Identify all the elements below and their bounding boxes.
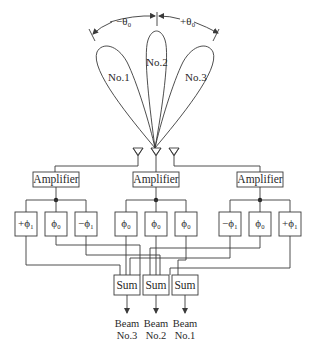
antenna-array	[55, 148, 260, 172]
beam-output-line2: No.1	[173, 330, 198, 342]
lobe-no2	[146, 31, 166, 148]
sum-label-1: Sum	[116, 280, 137, 292]
phase-shifter-2-3: ϕ₀	[181, 218, 191, 229]
amplifier-label-3: Amplifier	[237, 174, 282, 186]
beam-output-no1: Beam No.1	[173, 318, 198, 341]
phase-shifter-3-2: ϕ₀	[255, 218, 265, 229]
lobe-label-no3: No.3	[185, 72, 207, 83]
phase-shifter-1-2: ϕ₀	[51, 218, 61, 229]
angle-label-left: −θ₀	[116, 16, 131, 27]
beam-output-no3: Beam No.3	[115, 318, 140, 341]
beam-output-line2: No.2	[144, 330, 169, 342]
phase-shifter-1-1: +ϕ₁	[18, 218, 34, 229]
amplifier-label-1: Amplifier	[33, 174, 78, 186]
beam-output-line1: Beam	[115, 318, 140, 330]
beam-output-line1: Beam	[173, 318, 198, 330]
phase-shifter-2-2: ϕ₀	[151, 218, 161, 229]
beam-output-line1: Beam	[144, 318, 169, 330]
phase-shifter-3-1: −ϕ₁	[222, 218, 238, 229]
routing-network	[26, 236, 290, 275]
sum-label-3: Sum	[174, 280, 195, 292]
angle-label-right: +θ₀	[180, 16, 195, 27]
lobe-label-no2: No.2	[146, 57, 168, 68]
splitters	[26, 187, 290, 212]
sum-label-2: Sum	[145, 280, 166, 292]
beam-output-line2: No.3	[115, 330, 140, 342]
phase-shifter-3-3: +ϕ₁	[282, 218, 298, 229]
beam-lobes	[96, 31, 214, 148]
phase-shifter-1-3: −ϕ₁	[78, 218, 94, 229]
phase-shifter-2-1: ϕ₀	[121, 218, 131, 229]
beam-outputs	[127, 295, 185, 313]
beam-output-no2: Beam No.2	[144, 318, 169, 341]
amplifier-label-2: Amplifier	[133, 174, 178, 186]
angle-indicator	[89, 12, 219, 41]
lobe-label-no1: No.1	[108, 72, 130, 83]
